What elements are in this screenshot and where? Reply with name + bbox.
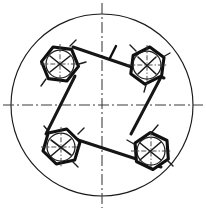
- belt-drive-drawing: Belt drive mechanism schematic: [0, 0, 206, 211]
- drawing-canvas: [0, 0, 206, 211]
